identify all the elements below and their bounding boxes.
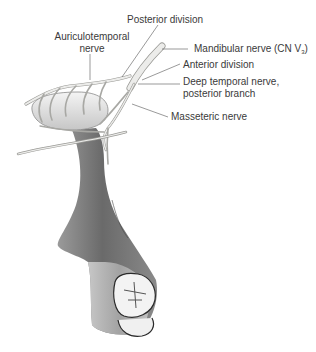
label-anterior-division: Anterior division xyxy=(183,59,254,71)
label-auriculotemporal-line2: nerve xyxy=(52,43,132,55)
label-deep-temporal-line1: Deep temporal nerve, xyxy=(183,76,279,88)
condyle xyxy=(32,92,108,130)
label-mandibular-text: Mandibular nerve (CN V xyxy=(194,43,301,54)
label-mandibular-nerve: Mandibular nerve (CN V3) xyxy=(194,43,308,58)
label-auriculotemporal-nerve: Auriculotemporal nerve xyxy=(52,31,132,55)
label-masseteric-nerve: Masseteric nerve xyxy=(171,111,247,123)
label-mandibular-close: ) xyxy=(305,43,308,54)
label-deep-temporal-line2: posterior branch xyxy=(183,88,279,100)
molar-tooth xyxy=(114,273,156,336)
label-posterior-division: Posterior division xyxy=(127,14,203,26)
label-auriculotemporal-line1: Auriculotemporal xyxy=(52,31,132,43)
label-deep-temporal-nerve: Deep temporal nerve, posterior branch xyxy=(183,76,279,100)
